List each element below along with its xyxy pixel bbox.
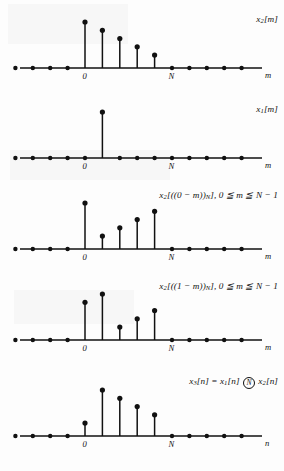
tick-label-origin: 0 — [83, 343, 87, 353]
stem-head-dot — [82, 421, 87, 426]
zero-sample-dot — [13, 247, 17, 251]
stem-head-dot — [82, 200, 87, 205]
tick-label-origin: 0 — [83, 439, 87, 449]
axis-variable-label: m — [265, 342, 271, 352]
zero-sample-dot — [187, 247, 191, 251]
stem-head-dot — [135, 316, 140, 321]
zero-sample-dot — [205, 156, 209, 160]
stem-head-dot — [100, 28, 105, 33]
tick-label-period: N — [169, 71, 175, 81]
tick-label-period: N — [169, 439, 175, 449]
zero-sample-dot — [13, 434, 17, 438]
zero-sample-dot — [65, 247, 69, 251]
zero-sample-dot — [135, 156, 139, 160]
zero-sample-dot — [170, 66, 174, 70]
stem-head-dot — [135, 217, 140, 222]
zero-sample-dot — [170, 338, 174, 342]
stem-head-dot — [100, 291, 105, 296]
stem-head-dot — [152, 412, 157, 417]
axis-variable-label: n — [265, 438, 269, 448]
zero-sample-dot — [222, 247, 226, 251]
stem-head-dot — [117, 396, 122, 401]
zero-sample-dot — [239, 338, 243, 342]
zero-sample-dot — [31, 434, 35, 438]
stem-head-dot — [152, 209, 157, 214]
panel-x1-m: x1[m]0Nm — [0, 90, 284, 184]
stem-plot-canvas — [0, 0, 284, 94]
stem-head-dot — [100, 387, 105, 392]
zero-sample-dot — [83, 156, 87, 160]
stem-head-dot — [135, 44, 140, 49]
stem-head-dot — [117, 325, 122, 330]
stem-head-dot — [135, 404, 140, 409]
axis-variable-label: m — [265, 160, 271, 170]
zero-sample-dot — [13, 66, 17, 70]
stem-head-dot — [100, 109, 105, 114]
panel-x2-reverse-0: x2[((0 − m))N], 0 ≦ m ≦ N − 10Nm — [0, 181, 284, 275]
panel-signal-label: x2[((0 − m))N], 0 ≦ m ≦ N − 1 — [159, 189, 278, 200]
zero-sample-dot — [205, 338, 209, 342]
zero-sample-dot — [118, 156, 122, 160]
zero-sample-dot — [222, 156, 226, 160]
axis-variable-label: m — [265, 251, 271, 261]
zero-sample-dot — [239, 66, 243, 70]
zero-sample-dot — [239, 156, 243, 160]
stem-plot-canvas — [0, 90, 284, 184]
panel-x2-reverse-1: x2[((1 − m))N], 0 ≦ m ≦ N − 10Nm — [0, 272, 284, 366]
zero-sample-dot — [205, 66, 209, 70]
zero-sample-dot — [65, 156, 69, 160]
zero-sample-dot — [48, 434, 52, 438]
zero-sample-dot — [65, 66, 69, 70]
panel-x3-n: x3[n] = x1[n] N x2[n]0Nn — [0, 368, 284, 462]
zero-sample-dot — [205, 434, 209, 438]
zero-sample-dot — [222, 66, 226, 70]
zero-sample-dot — [205, 247, 209, 251]
panel-signal-label: x2[m] — [256, 14, 278, 24]
zero-sample-dot — [48, 338, 52, 342]
tick-label-origin: 0 — [83, 252, 87, 262]
stem-head-dot — [117, 36, 122, 41]
panel-signal-label: x2[((1 − m))N], 0 ≦ m ≦ N − 1 — [159, 280, 278, 291]
zero-sample-dot — [48, 156, 52, 160]
panel-x2-m: x2[m]0Nm — [0, 0, 284, 94]
zero-sample-dot — [31, 247, 35, 251]
zero-sample-dot — [13, 156, 17, 160]
zero-sample-dot — [13, 338, 17, 342]
zero-sample-dot — [239, 434, 243, 438]
panel-signal-label: x1[m] — [256, 104, 278, 114]
zero-sample-dot — [170, 434, 174, 438]
zero-sample-dot — [65, 434, 69, 438]
stem-head-dot — [100, 234, 105, 239]
zero-sample-dot — [187, 434, 191, 438]
stem-head-dot — [152, 53, 157, 58]
tick-label-period: N — [169, 343, 175, 353]
zero-sample-dot — [222, 434, 226, 438]
tick-label-origin: 0 — [83, 161, 87, 171]
zero-sample-dot — [187, 66, 191, 70]
tick-label-period: N — [169, 252, 175, 262]
zero-sample-dot — [187, 156, 191, 160]
axis-variable-label: m — [265, 70, 271, 80]
stem-head-dot — [117, 225, 122, 230]
stem-head-dot — [82, 300, 87, 305]
zero-sample-dot — [152, 156, 156, 160]
stem-head-dot — [82, 19, 87, 24]
zero-sample-dot — [65, 338, 69, 342]
zero-sample-dot — [48, 247, 52, 251]
stem-plot-figure: x2[m]0Nmx1[m]0Nmx2[((0 − m))N], 0 ≦ m ≦ … — [0, 0, 284, 471]
zero-sample-dot — [222, 338, 226, 342]
zero-sample-dot — [187, 338, 191, 342]
zero-sample-dot — [170, 247, 174, 251]
panel-signal-label: x3[n] = x1[n] N x2[n] — [189, 376, 278, 389]
tick-label-origin: 0 — [83, 71, 87, 81]
stem-head-dot — [152, 308, 157, 313]
zero-sample-dot — [31, 156, 35, 160]
zero-sample-dot — [31, 338, 35, 342]
zero-sample-dot — [31, 66, 35, 70]
zero-sample-dot — [48, 66, 52, 70]
tick-label-period: N — [169, 161, 175, 171]
zero-sample-dot — [239, 247, 243, 251]
zero-sample-dot — [170, 156, 174, 160]
